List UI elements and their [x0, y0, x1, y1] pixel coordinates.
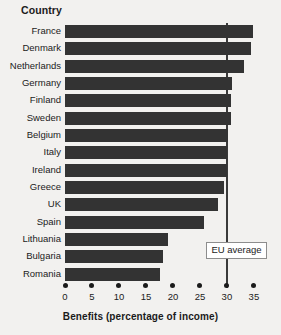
category-label: UK — [48, 197, 61, 210]
bar — [65, 233, 168, 246]
category-label: Bulgaria — [26, 249, 61, 262]
bar — [65, 146, 227, 159]
bar-row: Italy — [65, 144, 262, 161]
category-label: Belgium — [27, 128, 61, 141]
category-label: Italy — [44, 145, 61, 158]
eu-average-callout: EU average — [206, 242, 266, 259]
axis-tick-label: 25 — [185, 291, 215, 302]
category-label: Romania — [23, 267, 61, 280]
bar — [65, 112, 231, 125]
bar-row: Romania — [65, 266, 262, 283]
axis-tick-dot — [116, 283, 121, 288]
bar-row: Greece — [65, 179, 262, 196]
bar — [65, 268, 160, 281]
bar-row: Belgium — [65, 127, 262, 144]
category-column-header: Country — [0, 4, 62, 16]
bar — [65, 94, 231, 107]
bar — [65, 181, 224, 194]
axis-tick-label: 0 — [50, 291, 80, 302]
category-label: Greece — [30, 180, 61, 193]
axis-tick-label: 35 — [239, 291, 269, 302]
axis-tick-label: 30 — [212, 291, 242, 302]
axis-tick-dot — [251, 283, 256, 288]
bar-row: Ireland — [65, 162, 262, 179]
axis-tick-label: 20 — [158, 291, 188, 302]
bar-row: Denmark — [65, 40, 262, 57]
bar-chart: Country FranceDenmarkNetherlandsGermanyF… — [0, 0, 281, 335]
bar — [65, 216, 204, 229]
bar — [65, 250, 163, 263]
axis-tick-label: 5 — [77, 291, 107, 302]
category-label: Netherlands — [10, 59, 61, 72]
axis-tick-dot — [63, 283, 68, 288]
category-label: Ireland — [32, 163, 61, 176]
axis-tick-dot — [170, 283, 175, 288]
bar — [65, 198, 218, 211]
x-axis: 05101520253035 — [65, 283, 262, 313]
bar — [65, 129, 228, 142]
bar-row: Sweden — [65, 110, 262, 127]
x-axis-title: Benefits (percentage of income) — [0, 311, 281, 322]
bar-row: France — [65, 23, 262, 40]
category-label: Lithuania — [22, 232, 61, 245]
axis-tick-label: 15 — [131, 291, 161, 302]
bar-row: Netherlands — [65, 58, 262, 75]
bar-row: UK — [65, 196, 262, 213]
bar-row: Finland — [65, 92, 262, 109]
bar — [65, 77, 232, 90]
axis-tick-dot — [89, 283, 94, 288]
bar-row: Germany — [65, 75, 262, 92]
axis-tick-dot — [143, 283, 148, 288]
category-label: Spain — [37, 215, 61, 228]
category-label: Sweden — [27, 111, 61, 124]
axis-tick-label: 10 — [104, 291, 134, 302]
category-label: Denmark — [22, 41, 61, 54]
bar — [65, 25, 253, 38]
bar-row: Spain — [65, 214, 262, 231]
bar — [65, 60, 244, 73]
bar — [65, 164, 227, 177]
category-label: Germany — [22, 76, 61, 89]
plot-area: FranceDenmarkNetherlandsGermanyFinlandSw… — [65, 23, 262, 283]
bar — [65, 42, 251, 55]
category-label: France — [31, 24, 61, 37]
axis-tick-dot — [197, 283, 202, 288]
category-label: Finland — [30, 93, 61, 106]
axis-tick-dot — [224, 283, 229, 288]
